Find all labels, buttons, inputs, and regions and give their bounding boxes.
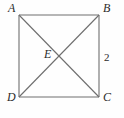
intersection-label-e: E bbox=[44, 48, 51, 60]
geometry-figure: A B C D E 2 bbox=[0, 0, 124, 118]
vertex-label-d: D bbox=[7, 91, 16, 103]
side-length-label-bc: 2 bbox=[104, 51, 110, 63]
vertex-label-b: B bbox=[103, 2, 110, 14]
vertex-label-c: C bbox=[103, 91, 111, 103]
vertex-label-a: A bbox=[8, 2, 15, 14]
